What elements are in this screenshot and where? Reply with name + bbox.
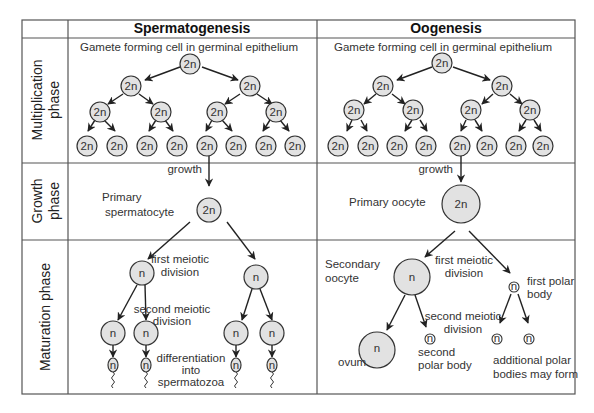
primary-spermatocyte-label: Primary	[102, 191, 142, 203]
svg-text:Maturation phase: Maturation phase	[37, 263, 53, 371]
primary-spermatocyte-label-line2: spermatocyte	[105, 206, 174, 218]
secondary-oocyte-cell: n	[394, 259, 430, 295]
svg-text:2n: 2n	[481, 140, 494, 152]
oo-cell-2n: 2n	[533, 136, 553, 156]
svg-text:2n: 2n	[184, 58, 197, 70]
sperm-cell-2n: 2n	[107, 136, 127, 156]
differentiation-label-line3: spermatozoa	[158, 376, 225, 388]
header-oogenesis: Oogenesis	[410, 20, 482, 36]
spermatid-cell: n	[101, 321, 125, 345]
svg-text:2n: 2n	[524, 104, 537, 116]
oogenesis-column: Gamete forming cell in germinal epitheli…	[325, 41, 578, 380]
svg-text:n: n	[526, 332, 532, 344]
svg-text:2n: 2n	[420, 140, 433, 152]
svg-text:2n: 2n	[201, 140, 214, 152]
svg-text:n: n	[374, 342, 380, 354]
svg-text:2n: 2n	[407, 104, 420, 116]
primary-oocyte-label: Primary oocyte	[349, 196, 426, 208]
svg-text:n: n	[110, 359, 116, 371]
sperm-first-division-label-line2: division	[161, 266, 199, 278]
svg-text:2n: 2n	[270, 106, 283, 118]
secondary-oocyte-label: Secondary	[325, 258, 380, 270]
oo-cell-2n: 2n	[492, 76, 512, 96]
svg-text:2n: 2n	[362, 140, 375, 152]
secondary-oocyte-label-line2: oocyte	[325, 272, 359, 284]
oo-second-division-label-line2: division	[444, 323, 482, 335]
phase-label-growth: Growth phase	[29, 178, 62, 223]
svg-text:Multiplication: Multiplication	[29, 60, 45, 141]
additional-polar-body: n	[492, 332, 502, 344]
svg-text:n: n	[269, 359, 275, 371]
gametogenesis-diagram: Spermatogenesis Oogenesis Multiplication…	[0, 0, 594, 413]
sperm-cell-2n: 2n	[167, 136, 187, 156]
svg-text:2n: 2n	[465, 104, 478, 116]
spermatid-cell: n	[260, 321, 284, 345]
oo-cell-2n: 2n	[506, 136, 526, 156]
phase-label-maturation: Maturation phase	[37, 263, 53, 371]
svg-text:2n: 2n	[377, 80, 390, 92]
svg-text:2n: 2n	[332, 140, 345, 152]
spermatozoon: n	[108, 358, 118, 388]
svg-text:phase: phase	[46, 182, 62, 220]
svg-text:n: n	[233, 327, 239, 339]
oo-second-division-label: second meiotic	[425, 310, 502, 322]
svg-text:n: n	[110, 327, 116, 339]
oo-cell-2n: 2n	[477, 136, 497, 156]
first-polar-body-label-line2: body	[527, 288, 552, 300]
svg-text:2n: 2n	[203, 204, 216, 216]
oo-cell-2n: 2n	[450, 136, 470, 156]
spermatozoon: n	[231, 358, 241, 388]
spermatozoon: n	[141, 358, 151, 388]
differentiation-label-line2: into	[182, 364, 201, 376]
oo-first-division-label: first meiotic	[435, 254, 493, 266]
svg-text:2n: 2n	[496, 80, 509, 92]
sperm-cell-2n: 2n	[77, 136, 97, 156]
primary-spermatocyte-cell: 2n	[197, 198, 221, 222]
sperm-cell-2n: 2n	[180, 54, 200, 74]
oo-first-division-label-line2: division	[445, 267, 483, 279]
svg-text:n: n	[253, 271, 259, 283]
svg-text:2n: 2n	[141, 140, 154, 152]
svg-text:n: n	[511, 280, 517, 292]
sperm-cell-2n: 2n	[197, 136, 217, 156]
oo-cell-2n: 2n	[328, 136, 348, 156]
svg-text:2n: 2n	[155, 106, 168, 118]
sperm-second-division-label-line2: division	[153, 315, 191, 327]
sperm-origin-label: Gamete forming cell in germinal epitheli…	[80, 41, 298, 53]
sperm-growth-label: growth	[167, 163, 202, 175]
svg-text:n: n	[233, 359, 239, 371]
sperm-cell-2n: 2n	[240, 76, 260, 96]
oo-cell-2n: 2n	[373, 76, 393, 96]
svg-text:n: n	[143, 327, 149, 339]
oo-cell-2n: 2n	[387, 136, 407, 156]
svg-text:n: n	[494, 332, 500, 344]
secondary-spermatocyte-cell: n	[130, 261, 154, 285]
svg-text:2n: 2n	[94, 106, 107, 118]
header-spermatogenesis: Spermatogenesis	[134, 20, 251, 36]
svg-text:2n: 2n	[455, 198, 468, 210]
oo-growth-label: growth	[418, 163, 453, 175]
additional-polar-body: n	[524, 332, 534, 344]
spermatid-cell: n	[134, 321, 158, 345]
second-polar-body-label-line2: polar body	[418, 359, 472, 371]
svg-text:2n: 2n	[537, 140, 550, 152]
first-polar-body: n	[509, 280, 519, 292]
svg-text:Growth: Growth	[29, 178, 45, 223]
additional-polar-bodies-label-line2: bodies may form	[493, 368, 578, 380]
sperm-cell-2n: 2n	[256, 136, 276, 156]
sperm-first-division-label: first meiotic	[151, 253, 209, 265]
second-polar-body-label: second	[418, 346, 455, 358]
spermatid-cell: n	[224, 321, 248, 345]
differentiation-label: differentiation	[157, 352, 226, 364]
sperm-second-division-label: second meiotic	[134, 303, 211, 315]
sperm-cell-2n: 2n	[226, 136, 246, 156]
additional-polar-bodies-label: additional polar	[493, 354, 571, 366]
svg-text:phase: phase	[46, 81, 62, 119]
oo-cell-2n: 2n	[416, 136, 436, 156]
svg-text:2n: 2n	[454, 140, 467, 152]
secondary-spermatocyte-cell: n	[244, 265, 268, 289]
oo-cell-2n: 2n	[344, 100, 364, 120]
svg-text:2n: 2n	[510, 140, 523, 152]
svg-text:n: n	[143, 359, 149, 371]
oo-cell-2n: 2n	[520, 100, 540, 120]
